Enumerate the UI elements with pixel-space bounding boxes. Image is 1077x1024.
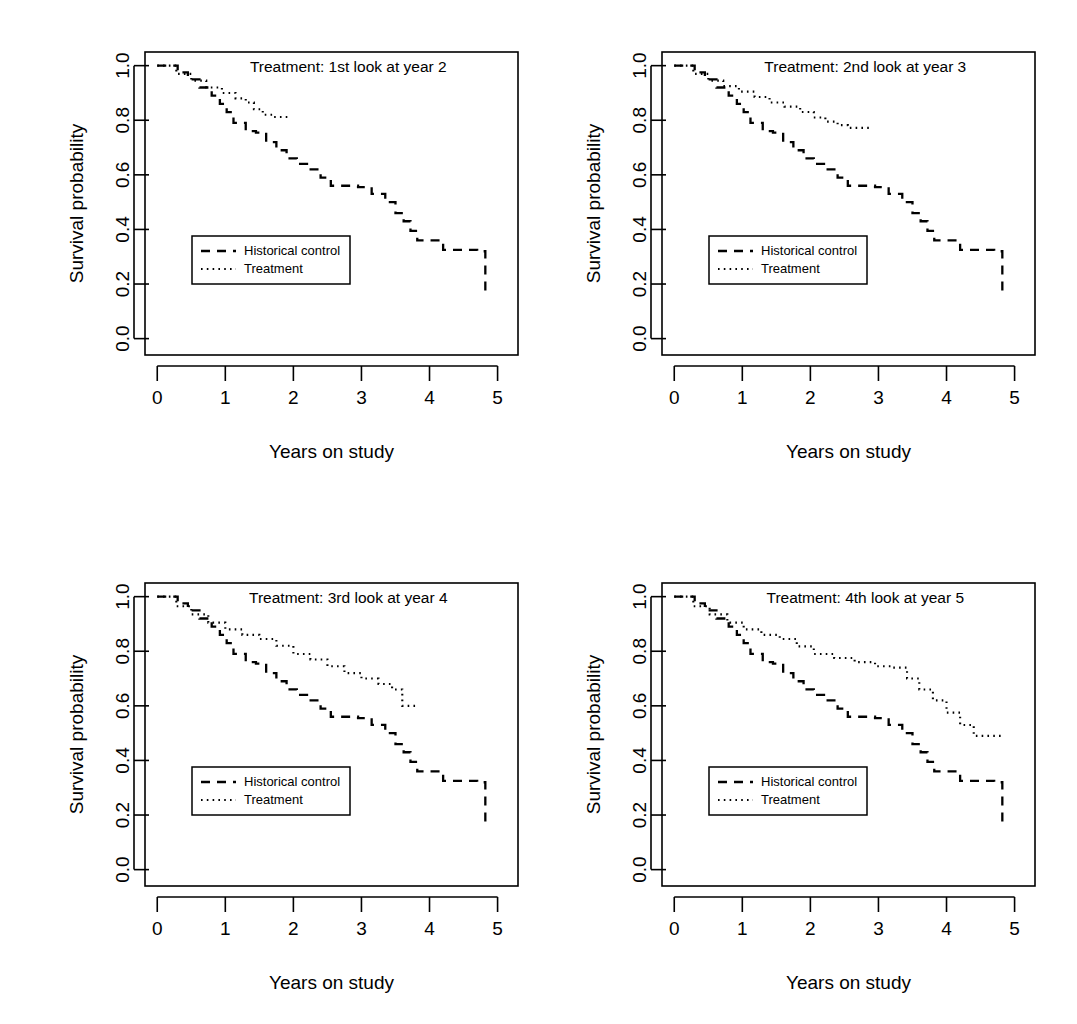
x-tick-label: 4 (941, 387, 952, 408)
plot-frame (662, 583, 1035, 886)
panel-1: 0.00.20.40.60.81.0012345Years on studySu… (0, 0, 560, 493)
panel-title: Treatment: 4th look at year 5 (766, 589, 964, 606)
legend-label-treatment: Treatment (761, 792, 820, 807)
y-tick-label: 1.0 (113, 583, 134, 609)
panel-4: 0.00.20.40.60.81.0012345Years on studySu… (517, 531, 1077, 1024)
x-tick-label: 1 (220, 918, 231, 939)
y-tick-label: 1.0 (630, 52, 651, 78)
y-tick-label: 0.4 (113, 747, 134, 774)
y-tick-label: 0.2 (630, 271, 651, 297)
legend-label-treatment: Treatment (761, 261, 820, 276)
x-tick-label: 1 (220, 387, 231, 408)
panel-3: 0.00.20.40.60.81.0012345Years on studySu… (0, 531, 560, 1024)
legend-label-treatment: Treatment (244, 261, 303, 276)
x-axis-title: Years on study (786, 441, 911, 462)
y-tick-label: 0.0 (113, 325, 134, 351)
y-tick-label: 0.8 (113, 107, 134, 133)
y-tick-label: 0.8 (630, 638, 651, 664)
y-axis-title: Survival probability (66, 123, 87, 283)
survival-figure: 0.00.20.40.60.81.0012345Years on studySu… (0, 0, 1077, 1024)
x-tick-label: 2 (288, 918, 299, 939)
x-tick-label: 5 (1009, 387, 1020, 408)
legend-label-historical-control: Historical control (244, 243, 340, 258)
plot-frame (145, 583, 518, 886)
x-tick-label: 4 (941, 918, 952, 939)
x-axis-title: Years on study (786, 972, 911, 993)
x-tick-label: 2 (805, 918, 816, 939)
legend-label-historical-control: Historical control (761, 774, 857, 789)
y-tick-label: 0.0 (630, 856, 651, 882)
x-tick-label: 1 (737, 387, 748, 408)
x-axis-title: Years on study (269, 972, 394, 993)
y-tick-label: 0.0 (630, 325, 651, 351)
x-tick-label: 3 (873, 918, 884, 939)
legend-label-historical-control: Historical control (761, 243, 857, 258)
y-tick-label: 0.8 (630, 107, 651, 133)
x-tick-label: 2 (288, 387, 299, 408)
x-axis-title: Years on study (269, 441, 394, 462)
y-tick-label: 0.0 (113, 856, 134, 882)
x-tick-label: 5 (1009, 918, 1020, 939)
legend-label-treatment: Treatment (244, 792, 303, 807)
x-tick-label: 4 (424, 387, 435, 408)
y-tick-label: 0.2 (113, 271, 134, 297)
y-tick-label: 0.4 (630, 747, 651, 774)
panel-title: Treatment: 1st look at year 2 (250, 58, 447, 75)
y-tick-label: 0.4 (630, 216, 651, 243)
x-tick-label: 1 (737, 918, 748, 939)
y-tick-label: 0.6 (113, 162, 134, 188)
panel-title: Treatment: 3rd look at year 4 (249, 589, 448, 606)
x-tick-label: 0 (669, 918, 680, 939)
x-tick-label: 5 (492, 918, 503, 939)
legend-label-historical-control: Historical control (244, 774, 340, 789)
x-tick-label: 0 (152, 387, 163, 408)
y-tick-label: 0.2 (630, 802, 651, 828)
x-tick-label: 3 (356, 918, 367, 939)
y-tick-label: 1.0 (630, 583, 651, 609)
y-tick-label: 0.2 (113, 802, 134, 828)
panel-2: 0.00.20.40.60.81.0012345Years on studySu… (517, 0, 1077, 493)
x-tick-label: 2 (805, 387, 816, 408)
y-axis-title: Survival probability (66, 654, 87, 814)
plot-frame (145, 52, 518, 355)
x-tick-label: 4 (424, 918, 435, 939)
y-axis-title: Survival probability (583, 123, 604, 283)
x-tick-label: 5 (492, 387, 503, 408)
y-tick-label: 0.8 (113, 638, 134, 664)
y-axis-title: Survival probability (583, 654, 604, 814)
plot-frame (662, 52, 1035, 355)
y-tick-label: 0.4 (113, 216, 134, 243)
y-tick-label: 0.6 (630, 693, 651, 719)
y-tick-label: 1.0 (113, 52, 134, 78)
curve-treatment (157, 597, 417, 706)
y-tick-label: 0.6 (113, 693, 134, 719)
x-tick-label: 0 (152, 918, 163, 939)
y-tick-label: 0.6 (630, 162, 651, 188)
x-tick-label: 0 (669, 387, 680, 408)
panel-title: Treatment: 2nd look at year 3 (764, 58, 966, 75)
x-tick-label: 3 (873, 387, 884, 408)
x-tick-label: 3 (356, 387, 367, 408)
